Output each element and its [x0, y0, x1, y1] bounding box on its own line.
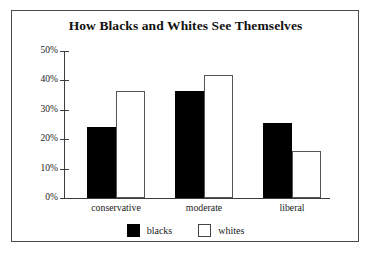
bar-moderate-whites [204, 75, 233, 198]
y-axis-tick [60, 51, 69, 52]
x-axis-label-moderate: moderate [153, 202, 255, 213]
legend-label-blacks: blacks [147, 225, 173, 236]
legend-item-blacks: blacks [127, 224, 173, 237]
y-axis-tick-label: 20% [24, 133, 58, 143]
chart-legend: blacks whites [0, 224, 371, 237]
legend-swatch-white-icon [198, 224, 211, 237]
legend-item-whites: whites [198, 224, 244, 237]
bar-conservative-whites [116, 91, 145, 198]
bar-liberal-whites [292, 151, 321, 198]
y-axis-tick-label: 30% [24, 104, 58, 114]
y-axis-tick-label: 0% [24, 192, 58, 202]
chart-figure: How Blacks and Whites See Themselves 0%1… [0, 0, 371, 257]
plot-area: 0%10%20%30%40%50% conservativemoderateli… [0, 0, 371, 257]
y-axis-tick-label-wrap: 20% [20, 133, 58, 145]
bar-liberal-blacks [263, 123, 292, 198]
x-axis-label-liberal: liberal [241, 202, 343, 213]
y-axis-tick [60, 169, 69, 170]
x-axis-line [64, 198, 330, 199]
y-axis-tick-label: 40% [24, 74, 58, 84]
y-axis-tick-label-wrap: 10% [20, 163, 58, 175]
y-axis-tick [60, 80, 69, 81]
y-axis-tick-label-wrap: 50% [20, 45, 58, 57]
y-axis-tick-label: 50% [24, 45, 58, 55]
y-axis-line [64, 51, 65, 199]
y-axis-tick [60, 198, 69, 199]
y-axis-tick-label-wrap: 0% [20, 192, 58, 204]
legend-swatch-black-icon [127, 224, 140, 237]
y-axis-tick-label-wrap: 30% [20, 104, 58, 116]
legend-label-whites: whites [218, 225, 244, 236]
x-axis-label-conservative: conservative [65, 202, 167, 213]
y-axis-tick-label-wrap: 40% [20, 74, 58, 86]
bar-conservative-blacks [87, 127, 116, 198]
y-axis-tick-label: 10% [24, 163, 58, 173]
bar-moderate-blacks [175, 91, 204, 198]
y-axis-tick [60, 110, 69, 111]
y-axis-tick [60, 139, 69, 140]
